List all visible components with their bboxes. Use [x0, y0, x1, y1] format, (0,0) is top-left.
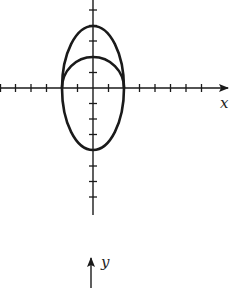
y-axis-label: y: [100, 253, 110, 271]
graph-figure: x y: [0, 0, 233, 288]
x-axis-label: x: [220, 94, 229, 112]
